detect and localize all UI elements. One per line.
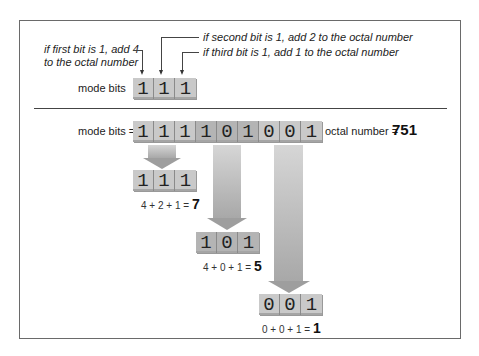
bit-cell: 1 <box>154 170 175 191</box>
top-mode-bits-cells: 1 1 1 <box>133 78 196 99</box>
top-mode-bits-label: mode bits <box>78 82 126 94</box>
second-bit-arrowhead-icon <box>159 70 163 75</box>
bit-cell: 1 <box>301 294 322 315</box>
bit-cell: 1 <box>175 170 196 191</box>
group2-cells: 1 0 1 <box>196 232 259 253</box>
bit-cell: 0 <box>280 294 301 315</box>
bit-cell: 1 <box>133 121 154 142</box>
group3-equation: 0 + 0 + 1 = 1 <box>262 320 321 336</box>
group1-cells: 1 1 1 <box>133 170 196 191</box>
octal-number-value: 751 <box>392 121 417 138</box>
bit-cell: 1 <box>238 232 259 253</box>
third-bit-leader-v <box>182 52 183 70</box>
group1-arrowhead-icon <box>143 158 181 169</box>
group3-cells: 0 0 1 <box>259 294 322 315</box>
group1-equation: 4 + 2 + 1 = 7 <box>141 196 200 212</box>
bit-cell: 1 <box>175 121 196 142</box>
first-bit-leader-v <box>142 50 143 70</box>
bit-cell: 0 <box>280 121 301 142</box>
bit-cell: 1 <box>133 78 154 99</box>
third-bit-leader-h <box>182 52 199 53</box>
bit-cell: 1 <box>133 170 154 191</box>
second-bit-annotation: if second bit is 1, add 2 to the octal n… <box>203 31 413 43</box>
bit-cell: 1 <box>175 78 196 99</box>
third-bit-arrowhead-icon <box>180 70 184 75</box>
group2-equation-text: 4 + 0 + 1 = <box>203 262 251 273</box>
group1-result: 7 <box>192 196 200 212</box>
bit-cell: 1 <box>301 121 322 142</box>
group3-result: 1 <box>313 320 321 336</box>
third-bit-annotation: if third bit is 1, add 1 to the octal nu… <box>203 46 399 58</box>
second-bit-leader-h <box>161 37 199 38</box>
group3-equation-text: 0 + 0 + 1 = <box>262 324 310 335</box>
octal-number-label: octal number = <box>325 125 398 137</box>
main-mode-bits-cells: 1 1 1 1 0 1 0 0 1 <box>133 121 322 142</box>
group3-arrow-icon <box>274 145 303 281</box>
group2-arrow-icon <box>213 145 241 218</box>
bit-cell: 0 <box>259 121 280 142</box>
first-bit-leader-h <box>133 50 142 51</box>
bit-cell: 1 <box>196 232 217 253</box>
main-mode-bits-label: mode bits = <box>78 125 135 137</box>
second-bit-leader-v <box>161 37 162 70</box>
bit-cell: 1 <box>154 121 175 142</box>
group2-arrowhead-icon <box>207 218 247 230</box>
group2-result: 5 <box>254 258 262 274</box>
first-bit-annotation-line1: if first bit is 1, add 4 <box>44 43 139 55</box>
group2-equation: 4 + 0 + 1 = 5 <box>203 258 262 274</box>
group1-equation-text: 4 + 2 + 1 = <box>141 200 189 211</box>
bit-cell: 0 <box>217 232 238 253</box>
first-bit-arrowhead-icon <box>140 70 144 75</box>
bit-cell: 1 <box>196 121 217 142</box>
group3-arrowhead-icon <box>268 281 310 293</box>
section-divider <box>34 108 447 109</box>
group1-arrow-icon <box>148 145 176 158</box>
bit-cell: 0 <box>259 294 280 315</box>
bit-cell: 1 <box>154 78 175 99</box>
bit-cell: 0 <box>217 121 238 142</box>
bit-cell: 1 <box>238 121 259 142</box>
first-bit-annotation-line2: to the octal number <box>44 56 138 68</box>
